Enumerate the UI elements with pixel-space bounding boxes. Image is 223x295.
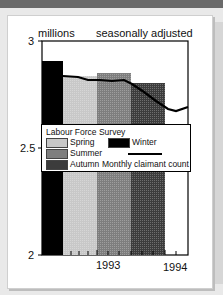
x-tick-1993: 1993 <box>96 259 120 271</box>
legend-swatch-winter <box>108 138 130 148</box>
legend-swatch-autumn <box>46 160 68 170</box>
y-tick-2-5: 2.5 <box>20 142 35 154</box>
legend-label-winter: Winter <box>132 137 157 147</box>
chart-legend: Labour Force Survey Spring Winter Summer… <box>41 124 191 172</box>
legend-swatch-summer <box>46 149 68 159</box>
seasonal-note: seasonally adjusted <box>96 27 193 39</box>
y-tick-2: 2 <box>28 249 34 261</box>
legend-label-summer: Summer <box>70 148 102 158</box>
legend-label-autumn: Autumn <box>70 159 99 169</box>
y-axis-unit-label: millions <box>38 27 75 39</box>
legend-label-claimant: Monthly claimant count <box>102 159 189 169</box>
legend-line-claimant <box>128 153 162 155</box>
legend-label-spring: Spring <box>70 137 95 147</box>
legend-title: Labour Force Survey <box>46 127 125 137</box>
x-tick-1994: 1994 <box>163 261 187 273</box>
y-tick-3: 3 <box>28 35 34 47</box>
legend-swatch-spring <box>46 138 68 148</box>
